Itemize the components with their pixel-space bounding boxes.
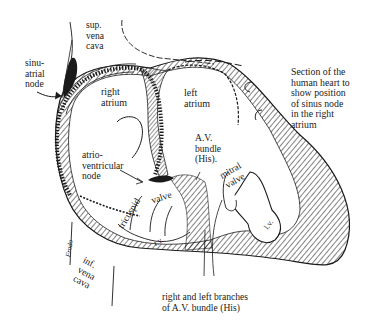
figure-caption: Section of the human heart to show posit… — [291, 67, 350, 131]
label-sinu-atrial-node: sinu- atrial node — [25, 58, 45, 90]
label-av-bundle: A.V. bundle (His). — [195, 133, 221, 165]
label-atrioventricular-node: atrio- ventricular node — [82, 150, 124, 182]
label-right-atrium: right atrium — [101, 87, 127, 108]
label-sup-vena-cava: sup. vena cava — [86, 20, 104, 52]
label-left-atrium: left atrium — [184, 88, 210, 109]
heart-section-diagram: sup. vena cava sinu- atrial node right a… — [0, 0, 389, 323]
inf-vena-cava-right-line — [112, 266, 114, 306]
label-av-bundle-branches: right and left branches of A.V. bundle (… — [162, 292, 248, 313]
